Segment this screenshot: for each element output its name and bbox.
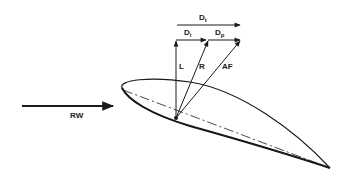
airfoil-force-diagram: RW L R AF Di Dp Dt [0,0,353,178]
lift-label: L [179,62,184,71]
profile-drag-label: Dp [215,28,225,38]
induced-drag-label: Di [184,28,192,38]
aerodynamic-force-vector [176,41,240,118]
resultant-label: R [199,62,205,71]
total-drag-label: Dt [199,13,207,23]
chord-line [123,90,330,168]
relative-wind-label: RW [70,111,84,120]
aerodynamic-force-label: AF [222,62,233,71]
airfoil-outline [122,79,330,168]
resultant-vector [176,41,208,118]
